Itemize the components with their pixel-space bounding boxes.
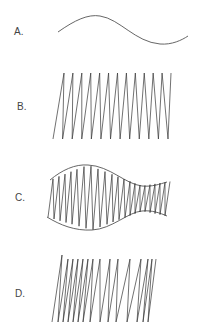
panel-a-wave	[58, 16, 188, 45]
panel-c-top-envelope	[50, 165, 167, 186]
panel-d-zigzag	[52, 255, 156, 322]
figure-canvas	[0, 0, 200, 326]
panel-b-zigzag	[53, 73, 171, 139]
panel-c-zigzag	[48, 166, 170, 229]
